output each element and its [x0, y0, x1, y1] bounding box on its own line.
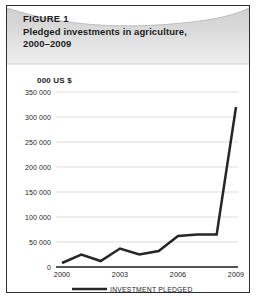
- y-tick-label: 50 000: [29, 239, 51, 246]
- y-tick-label: 350 000: [25, 89, 51, 96]
- x-axis-tick-labels: 2000 2003 2006 2009: [54, 270, 244, 279]
- figure-container: FIGURE 1 Pledged investments in agricult…: [0, 0, 256, 299]
- y-tick-label: 300 000: [25, 114, 51, 121]
- gridlines: [56, 92, 238, 242]
- figure-header-banner: FIGURE 1 Pledged investments in agricult…: [7, 6, 249, 72]
- investment-pledged-line: [62, 107, 236, 263]
- figure-title-line-2: 2000–2009: [23, 38, 238, 50]
- y-tick-label: 250 000: [25, 139, 51, 146]
- y-tick-label: 0: [47, 264, 51, 271]
- x-tick-label: 2003: [112, 270, 128, 279]
- figure-label: FIGURE 1: [23, 13, 238, 25]
- chart-legend: INVESTMENT PLEDGED: [72, 286, 193, 293]
- y-tick-label: 200 000: [25, 164, 51, 171]
- chart-area: 000 US $ 350 000 300 000 250 000 200 000…: [7, 72, 249, 292]
- legend-label-investment-pledged: INVESTMENT PLEDGED: [110, 286, 193, 293]
- line-chart-svg: 350 000 300 000 250 000 200 000 150 000 …: [7, 72, 249, 292]
- figure-title-line-1: Pledged investments in agriculture,: [23, 26, 238, 38]
- y-tick-label: 100 000: [25, 214, 51, 221]
- y-axis-tick-labels: 350 000 300 000 250 000 200 000 150 000 …: [25, 89, 51, 271]
- y-tick-label: 150 000: [25, 189, 51, 196]
- x-tick-label: 2009: [228, 270, 244, 279]
- figure-heading-group: FIGURE 1 Pledged investments in agricult…: [23, 13, 238, 50]
- x-tick-label: 2000: [54, 270, 70, 279]
- x-tick-label: 2006: [170, 270, 186, 279]
